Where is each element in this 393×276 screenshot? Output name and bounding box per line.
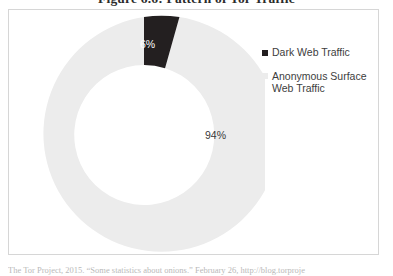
square-marker-icon (262, 50, 268, 56)
square-marker-icon (262, 73, 268, 79)
legend-item-dark-web-traffic[interactable]: Dark Web Traffic (262, 46, 380, 59)
source-caption: The Tor Project, 2015. “Some statistics … (8, 265, 393, 276)
legend-label-anonymous-surface-web-traffic: Anonymous Surface Web Traffic (272, 70, 380, 95)
figure-title: Figure 6.6: Pattern of Tor Traffic (0, 0, 393, 7)
legend-item-anonymous-surface-web-traffic[interactable]: Anonymous Surface Web Traffic (262, 70, 380, 95)
legend-label-dark-web-traffic: Dark Web Traffic (272, 46, 350, 59)
donut-chart-svg (23, 14, 265, 256)
chart-frame: 6% 94% Dark Web Traffic Anonymous Surfac… (8, 9, 379, 255)
slice-label-anonymous-surface-web-traffic: 94% (205, 129, 226, 141)
chart-legend: Dark Web Traffic Anonymous Surface Web T… (262, 46, 380, 106)
slice-label-dark-web-traffic: 6% (140, 38, 155, 50)
